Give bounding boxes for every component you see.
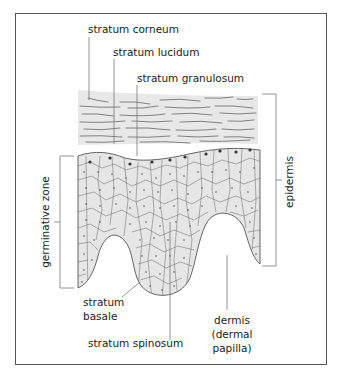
epidermis-diagram: stratum corneum stratum lucidum stratum … (0, 0, 339, 376)
label-dermis-3: papilla) (212, 342, 251, 354)
label-dermis-1: dermis (214, 314, 250, 326)
label-stratum-basale-2: basale (83, 310, 117, 322)
stratum-corneum-layer (78, 90, 258, 145)
label-stratum-granulosum: stratum granulosum (137, 72, 244, 84)
label-dermis-2: (dermal (212, 328, 253, 340)
germinative-zone-bracket (54, 156, 74, 288)
label-germinative-zone: germinative zone (39, 176, 51, 268)
label-stratum-lucidum: stratum lucidum (113, 46, 200, 58)
label-epidermis: epidermis (283, 156, 295, 208)
epidermis-bracket (262, 94, 282, 266)
label-stratum-spinosum: stratum spinosum (88, 337, 183, 349)
label-stratum-basale-1: stratum (83, 296, 124, 308)
label-stratum-corneum: stratum corneum (88, 23, 179, 35)
